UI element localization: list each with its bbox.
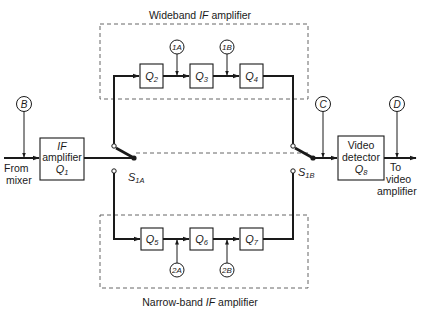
input-label-2: mixer — [6, 174, 32, 186]
svg-text:Video: Video — [348, 139, 375, 151]
svg-text:S1B: S1B — [298, 166, 315, 180]
output-label: To — [390, 161, 401, 173]
stage-q5: Q5 — [141, 228, 163, 250]
stage-q6: Q6 — [190, 228, 213, 250]
test-point-c: C — [316, 97, 331, 158]
switch-s1a: S1A — [112, 144, 145, 185]
narrowband-output-wire — [263, 173, 293, 239]
stage-q3: Q3 — [190, 64, 213, 88]
narrowband-title: Narrow-band IF amplifier — [142, 296, 258, 308]
svg-text:1B: 1B — [222, 43, 232, 52]
if-amplifier-q1: IF amplifier Q1 — [40, 138, 84, 180]
test-point-b: B — [17, 97, 32, 158]
svg-text:detector: detector — [342, 151, 380, 163]
stage-q2: Q2 — [140, 64, 163, 88]
svg-text:2A: 2A — [171, 266, 182, 275]
test-point-2b: 2B — [220, 240, 234, 277]
output-label-3: amplifier — [377, 185, 417, 197]
test-point-d: D — [390, 97, 405, 158]
narrowband-amplifier-boundary — [100, 215, 308, 288]
svg-text:B: B — [21, 99, 28, 110]
test-point-1b: 1B — [220, 40, 234, 75]
svg-text:amplifier: amplifier — [42, 151, 82, 163]
video-detector-q8: Video detector Q8 — [338, 136, 384, 180]
wideband-input-wire — [114, 76, 139, 145]
output-label-2: video — [386, 173, 411, 185]
stage-q4: Q4 — [240, 64, 263, 88]
svg-text:D: D — [393, 99, 400, 110]
svg-text:S1A: S1A — [128, 171, 145, 185]
switch-s1b: S1B — [291, 144, 316, 180]
svg-text:1A: 1A — [172, 43, 182, 52]
wideband-narrowband-if-block-diagram: Wideband IF amplifier Q2 Q3 Q4 1A 1B B F… — [0, 0, 428, 318]
stage-q7: Q7 — [240, 228, 263, 250]
test-point-2a: 2A — [170, 240, 184, 277]
svg-text:C: C — [319, 99, 327, 110]
svg-text:2B: 2B — [221, 266, 232, 275]
wideband-title: Wideband IF amplifier — [149, 9, 252, 21]
wideband-output-wire — [263, 76, 293, 145]
test-point-1a: 1A — [170, 40, 184, 75]
input-label: From — [4, 162, 29, 174]
